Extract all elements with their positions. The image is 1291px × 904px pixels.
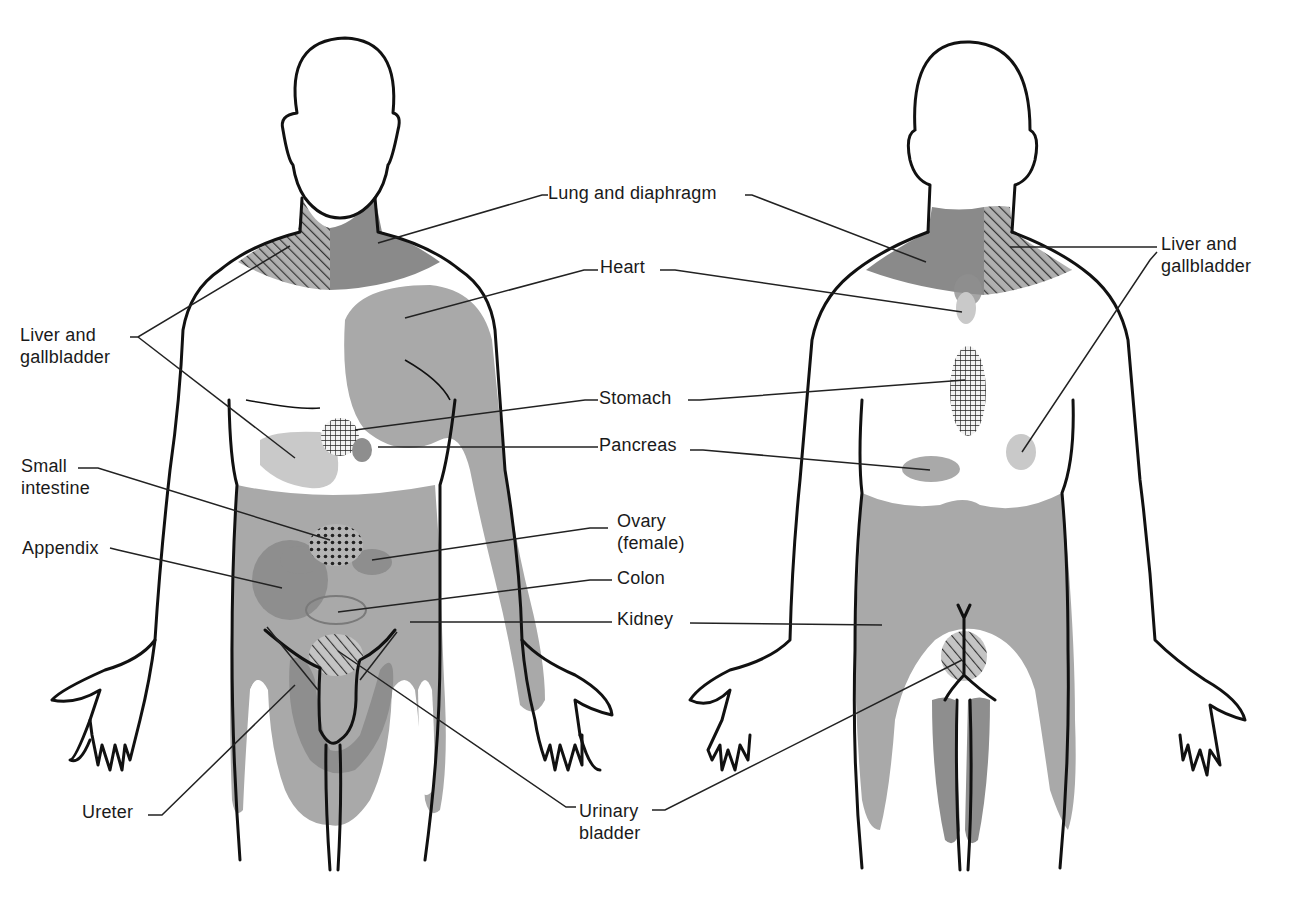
label-lung-and-diaphragm: Lung and diaphragm	[548, 182, 717, 204]
lung-neck-zone-front	[330, 198, 440, 290]
label-colon: Colon	[617, 567, 665, 589]
label-pancreas: Pancreas	[599, 434, 677, 456]
front-head-outline	[282, 38, 399, 218]
label-appendix: Appendix	[22, 537, 99, 559]
liver-zone-back	[1006, 434, 1036, 470]
label-ovary-female: Ovary (female)	[617, 510, 685, 554]
label-liver-gallbladder-back: Liver and gallbladder	[1161, 233, 1251, 277]
anterior-figure	[52, 38, 612, 870]
label-small-intestine: Small intestine	[21, 455, 90, 499]
label-urinary-bladder: Urinary bladder	[579, 800, 640, 844]
ureter-zone-back	[932, 698, 990, 844]
front-left-hand	[90, 640, 155, 770]
liver-neck-zone-front	[238, 198, 330, 290]
back-head-outline	[908, 42, 1036, 232]
small-intestine-zone	[309, 524, 363, 566]
label-heart: Heart	[600, 256, 645, 278]
label-ureter: Ureter	[82, 801, 133, 823]
label-liver-gallbladder-front: Liver and gallbladder	[20, 324, 110, 368]
label-kidney: Kidney	[617, 608, 673, 630]
bladder-zone-front	[309, 634, 363, 676]
pancreas-zone-front	[352, 438, 372, 462]
label-stomach: Stomach	[599, 387, 671, 409]
stomach-zone-back	[950, 346, 986, 436]
liver-neck-zone-back	[984, 206, 1072, 295]
